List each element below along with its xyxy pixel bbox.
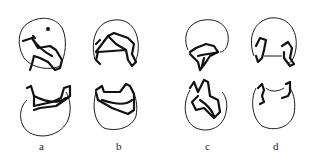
- figure-drawing: [0, 0, 316, 163]
- panel-b-drawing: [93, 20, 138, 130]
- figure-canvas: a b c d: [0, 0, 316, 163]
- panel-c-drawing: [185, 20, 228, 130]
- panel-label-d: d: [273, 140, 279, 152]
- panel-d-drawing: [251, 18, 296, 129]
- panel-a-drawing: [19, 18, 70, 136]
- panel-label-b: b: [116, 140, 122, 152]
- panel-label-c: c: [205, 140, 210, 152]
- panel-label-a: a: [39, 140, 44, 152]
